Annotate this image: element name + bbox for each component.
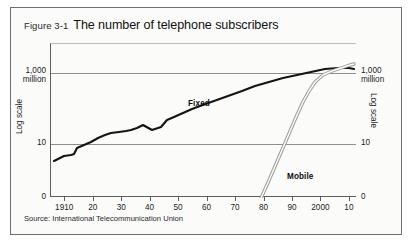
y-axis-label-right-10: 10 [361,138,401,147]
x-axis-tick-label: 2000 [311,203,329,212]
x-axis-tick-label: 50 [174,203,183,212]
x-axis-tick-label: 60 [202,203,211,212]
figure-number: Figure 3-1 [24,20,68,31]
page-title: The number of telephone subscribers [73,18,278,32]
y-axis-label-right-1000: 1,000 million [361,66,401,84]
x-axis-tick-mark [121,197,122,201]
x-axis-tick-mark [349,197,350,201]
x-axis-tick-label: 80 [259,203,268,212]
x-axis-tick-label: 1910 [55,203,73,212]
series-line-fixed [54,68,354,161]
figure-card: Figure 3-1The number of telephone subscr… [10,7,402,235]
y-axis-title-right: Log scale [369,93,378,128]
y-axis-label-left-1000: 1,000 million [12,66,46,84]
x-axis-tick-mark [320,197,321,201]
x-axis-tick-mark [207,197,208,201]
x-axis-tick-mark [292,197,293,201]
y-axis-label-right-1000-value: 1,000 [361,66,401,75]
y-axis-label-left-10: 10 [12,138,46,147]
figure-caption: Figure 3-1The number of telephone subscr… [24,16,278,32]
x-axis-tick-label: 90 [287,203,296,212]
y-axis-label-right-0: 0 [361,192,401,201]
x-axis-tick-mark [235,197,236,201]
x-axis-tick-mark [64,197,65,201]
x-axis-tick-mark [93,197,94,201]
source-note: Source: International Telecommunication … [24,214,183,223]
series-label-mobile: Mobile [287,172,314,181]
y-axis-label-right-1000-unit: million [361,75,401,84]
y-axis-label-left-1000-unit: million [12,75,46,84]
x-axis-tick-mark [178,197,179,201]
x-axis-tick-mark [264,197,265,201]
series-label-fixed: Fixed [188,99,210,108]
y-axis-label-left-0: 0 [12,192,46,201]
x-axis-tick-label: 10 [344,203,353,212]
x-axis-tick-label: 70 [230,203,239,212]
x-axis-tick-mark [150,197,151,201]
y-axis-title-left: Log scale [15,99,24,134]
x-axis-tick-label: 40 [145,203,154,212]
chart-plot-area: Fixed Mobile [50,43,356,197]
x-axis-tick-label: 30 [117,203,126,212]
y-axis-label-left-1000-value: 1,000 [12,66,46,75]
x-axis-tick-label: 20 [88,203,97,212]
